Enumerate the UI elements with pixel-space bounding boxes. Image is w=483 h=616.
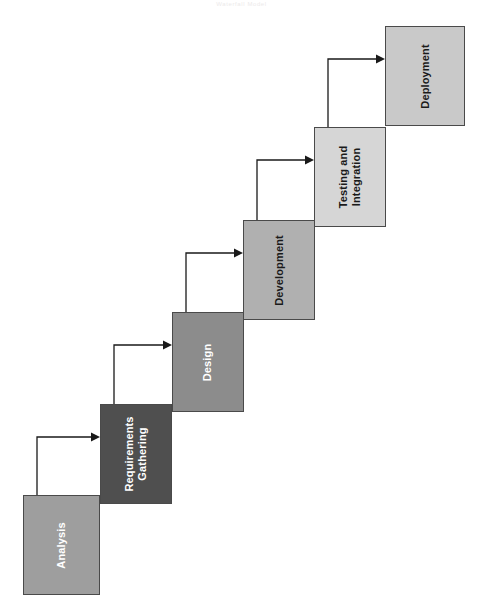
stage-label-design: Design [202, 343, 215, 381]
stage-box-testing-and-integration[interactable]: Testing and Integration [314, 127, 386, 227]
stage-label-development: Development [273, 235, 286, 306]
connector-development-to-testing [247, 150, 324, 230]
stage-label-deployment: Deployment [419, 44, 432, 108]
stage-label-requirements-gathering: Requirements Gathering [123, 416, 149, 491]
connector-analysis-to-requirements [27, 427, 110, 505]
connector-requirements-to-design [104, 335, 182, 414]
stage-box-deployment[interactable]: Deployment [385, 26, 465, 126]
connector-design-to-development [176, 243, 253, 322]
stage-box-development[interactable]: Development [243, 220, 315, 320]
page-caption: Waterfall Model [0, 1, 483, 7]
stage-label-testing-and-integration: Testing and Integration [337, 146, 363, 209]
stage-box-requirements-gathering[interactable]: Requirements Gathering [100, 404, 172, 504]
stage-box-design[interactable]: Design [172, 312, 244, 412]
stage-box-analysis[interactable]: Analysis [23, 495, 100, 595]
diagram-canvas: Waterfall Model Analysis Requirements Ga… [0, 0, 483, 616]
stage-label-analysis: Analysis [55, 522, 68, 568]
connector-testing-to-deployment [318, 49, 395, 137]
